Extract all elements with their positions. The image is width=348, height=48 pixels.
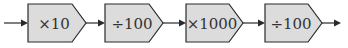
output-arrow	[322, 20, 341, 27]
input-arrow	[4, 20, 28, 27]
step-box-4: ÷100	[265, 4, 322, 42]
connector-arrow-2	[163, 20, 186, 27]
step-box-2: ÷100	[105, 4, 163, 42]
connector-arrow-3	[243, 20, 265, 27]
step-box-3: ×1000	[186, 4, 243, 42]
flow-diagram: ×10 ÷100 ×1000 ÷100	[0, 0, 348, 48]
step-label-2: ÷100	[111, 15, 152, 33]
step-box-1: ×10	[28, 4, 86, 42]
step-label-1: ×10	[38, 15, 70, 33]
connector-arrow-1	[86, 20, 105, 27]
step-label-4: ÷100	[270, 15, 311, 33]
step-label-3: ×1000	[187, 15, 238, 33]
